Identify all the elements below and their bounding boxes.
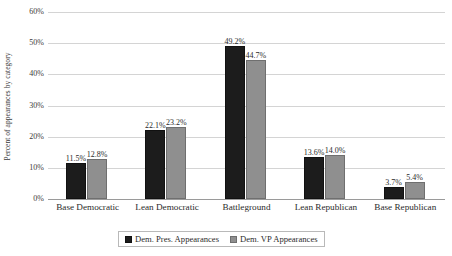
bar-chart: Percent of appearances by category 0%10%… [0, 0, 452, 256]
x-axis-baseline [48, 199, 445, 200]
bar-value-label: 3.7% [385, 179, 402, 187]
bar-value-label: 49.2% [224, 38, 245, 46]
legend-label: Dem. VP Appearances [240, 234, 318, 244]
y-axis-tick-label: 50% [16, 39, 44, 47]
y-axis-title: Percent of appearances by category [0, 0, 14, 212]
bar[interactable]: 14.0% [325, 155, 345, 199]
y-axis-tick-label: 10% [16, 164, 44, 172]
y-axis-tick-label: 30% [16, 102, 44, 110]
x-axis-category-label: Base Republican [366, 202, 445, 212]
bar-group: 3.7%5.4% [366, 11, 445, 199]
bar[interactable]: 44.7% [246, 60, 266, 199]
bar[interactable]: 5.4% [405, 182, 425, 199]
bar-value-label: 22.1% [145, 122, 166, 130]
legend-entry[interactable]: Dem. VP Appearances [230, 234, 318, 244]
bar-value-label: 14.0% [325, 147, 346, 155]
legend-entry[interactable]: Dem. Pres. Appearances [125, 234, 219, 244]
y-axis-title-label: Percent of appearances by category [3, 52, 12, 160]
chart-legend: Dem. Pres. AppearancesDem. VP Appearance… [118, 231, 325, 247]
bar[interactable]: 13.6% [304, 157, 324, 199]
plot-area: 11.5%12.8%22.1%23.2%49.2%44.7%13.6%14.0%… [48, 12, 445, 200]
bar[interactable]: 12.8% [87, 159, 107, 199]
y-axis-tick-label: 40% [16, 70, 44, 78]
bar-value-label: 44.7% [245, 52, 266, 60]
bar-group: 13.6%14.0% [286, 11, 365, 199]
bar-value-label: 12.8% [87, 151, 108, 159]
bar-value-label: 23.2% [166, 119, 187, 127]
legend-color-swatch [230, 236, 237, 243]
bar-value-label: 13.6% [304, 149, 325, 157]
bar-group: 22.1%23.2% [127, 11, 206, 199]
x-axis-category-label: Lean Republican [286, 202, 365, 212]
legend-color-swatch [125, 236, 132, 243]
x-axis-category-label: Lean Democratic [127, 202, 206, 212]
bar[interactable]: 3.7% [384, 187, 404, 199]
bar[interactable]: 49.2% [225, 46, 245, 199]
legend-label: Dem. Pres. Appearances [135, 234, 219, 244]
y-axis-tick-label: 20% [16, 133, 44, 141]
bar[interactable]: 22.1% [145, 130, 165, 199]
clipped-chart-title [0, 0, 452, 5]
y-axis-tick-label: 60% [16, 8, 44, 16]
x-axis-category-label: Base Democratic [48, 202, 127, 212]
bar-value-label: 5.4% [406, 174, 423, 182]
x-axis-category-label: Battleground [207, 202, 286, 212]
bar[interactable]: 11.5% [66, 163, 86, 199]
y-axis-tick-label: 0% [16, 195, 44, 203]
bar-group: 11.5%12.8% [48, 11, 127, 199]
bar-group: 49.2%44.7% [207, 11, 286, 199]
bar[interactable]: 23.2% [166, 127, 186, 199]
bar-value-label: 11.5% [66, 155, 86, 163]
